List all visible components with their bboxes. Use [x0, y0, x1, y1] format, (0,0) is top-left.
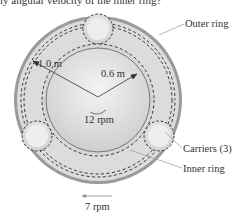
- outer-speed-label: 7 rpm: [85, 201, 110, 212]
- inner-ring-label: Inner ring: [183, 163, 225, 174]
- inner-speed-label: 12 rpm: [84, 114, 114, 125]
- planetary-gear-diagram: [0, 0, 245, 217]
- outer-ring-label: Outer ring: [185, 18, 228, 29]
- carriers-label: Carriers (3): [183, 143, 232, 154]
- inner-radius-label: 0.6 m: [101, 68, 125, 79]
- outer-radius-label: 1.0 m: [38, 58, 62, 69]
